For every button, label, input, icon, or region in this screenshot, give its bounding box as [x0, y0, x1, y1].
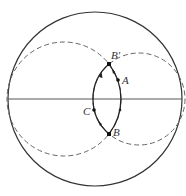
point-b [107, 132, 111, 136]
point-c [92, 108, 96, 112]
point-b-prime [107, 62, 111, 66]
label-c: C [83, 105, 91, 117]
label-a: A [121, 74, 129, 86]
marker-dot-right-lower [119, 109, 122, 112]
label-b-prime: B′ [111, 49, 121, 61]
geometry-diagram: B′ A C B [0, 0, 186, 196]
point-a [116, 78, 120, 82]
label-b: B [113, 126, 120, 138]
